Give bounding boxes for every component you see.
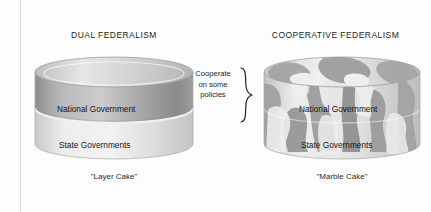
cake-layer-label-national-government-dual: National Government	[57, 104, 135, 114]
panel-caption-layer-cake: "Layer Cake"	[33, 172, 195, 181]
panel-caption-marble-cake: "Marble Cake"	[262, 172, 422, 181]
annotation-line-3: policies	[189, 90, 237, 101]
panel-title-dual-federalism: DUAL FEDERALISM	[33, 30, 195, 40]
cooperate-annotation: Cooperate on some policies	[189, 66, 259, 128]
cake-layer-label-state-governments-cooperative: State Governments	[301, 140, 372, 150]
curly-brace-icon	[238, 66, 254, 124]
cooperate-annotation-text: Cooperate on some policies	[189, 69, 237, 101]
annotation-line-2: on some	[189, 80, 237, 91]
cake-layer-label-national-government-cooperative: National Government	[299, 104, 377, 114]
annotation-line-1: Cooperate	[189, 69, 237, 80]
cake-layer-label-state-governments-dual: State Governments	[59, 140, 130, 150]
panel-title-cooperative-federalism: COOPERATIVE FEDERALISM	[248, 30, 423, 40]
figure-canvas: DUAL FEDERALISM	[0, 0, 431, 212]
page-margin-rule	[20, 0, 21, 212]
